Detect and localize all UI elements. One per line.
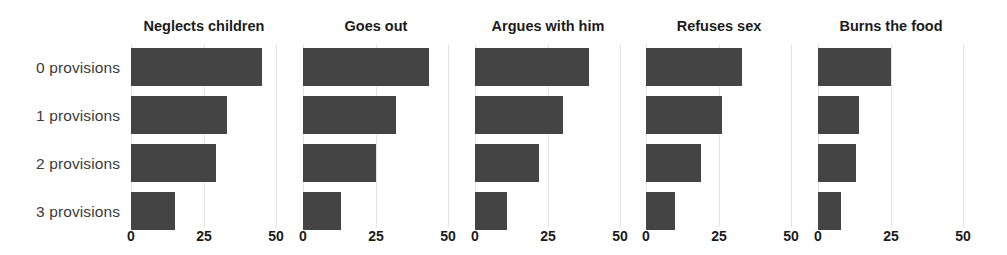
x-axis: 0 25 50 bbox=[303, 228, 449, 250]
x-tick-label: 0 bbox=[299, 228, 307, 244]
bar bbox=[818, 144, 856, 182]
x-axis: 0 25 50 bbox=[818, 228, 964, 250]
bar bbox=[475, 144, 539, 182]
x-tick-label: 25 bbox=[196, 228, 212, 244]
bar bbox=[646, 192, 675, 230]
bar bbox=[646, 48, 742, 86]
category-label: 1 provisions bbox=[36, 107, 120, 125]
x-axis: 0 25 50 bbox=[646, 228, 792, 250]
bar bbox=[303, 144, 376, 182]
bar bbox=[131, 96, 227, 134]
x-tick-label: 0 bbox=[814, 228, 822, 244]
panel-burns-the-food: Burns the food 0 25 50 bbox=[818, 0, 964, 255]
bar bbox=[646, 96, 722, 134]
category-axis-labels: 0 provisions 1 provisions 2 provisions 3… bbox=[0, 0, 126, 255]
chart-figure: 0 provisions 1 provisions 2 provisions 3… bbox=[0, 0, 1007, 255]
bar bbox=[475, 192, 507, 230]
bar bbox=[646, 144, 701, 182]
x-axis: 0 25 50 bbox=[475, 228, 621, 250]
panel-neglects-children: Neglects children 0 25 50 bbox=[131, 0, 277, 255]
bar bbox=[818, 96, 859, 134]
panel-title: Argues with him bbox=[475, 18, 621, 34]
x-tick-label: 50 bbox=[440, 228, 456, 244]
plot-area bbox=[475, 44, 621, 227]
plot-area bbox=[131, 44, 277, 227]
panel-title: Goes out bbox=[303, 18, 449, 34]
bar bbox=[303, 96, 396, 134]
x-tick-label: 50 bbox=[268, 228, 284, 244]
gridline-50 bbox=[620, 44, 621, 227]
panel-refuses-sex: Refuses sex 0 25 50 bbox=[646, 0, 792, 255]
x-tick-label: 50 bbox=[612, 228, 628, 244]
panel-argues-with-him: Argues with him 0 25 50 bbox=[475, 0, 621, 255]
plot-area bbox=[818, 44, 964, 227]
bar bbox=[131, 192, 175, 230]
panel-goes-out: Goes out 0 25 50 bbox=[303, 0, 449, 255]
category-label: 0 provisions bbox=[36, 59, 120, 77]
gridline-50 bbox=[448, 44, 449, 227]
x-tick-label: 25 bbox=[368, 228, 384, 244]
x-tick-label: 0 bbox=[642, 228, 650, 244]
gridline-25 bbox=[891, 44, 892, 227]
bar bbox=[303, 192, 341, 230]
bar bbox=[131, 144, 216, 182]
x-tick-label: 50 bbox=[955, 228, 971, 244]
panel-title: Burns the food bbox=[818, 18, 964, 34]
bar bbox=[303, 48, 429, 86]
category-label: 3 provisions bbox=[36, 203, 120, 221]
x-tick-label: 0 bbox=[471, 228, 479, 244]
gridline-50 bbox=[791, 44, 792, 227]
gridline-50 bbox=[276, 44, 277, 227]
bar bbox=[475, 96, 563, 134]
x-tick-label: 25 bbox=[711, 228, 727, 244]
panel-title: Refuses sex bbox=[646, 18, 792, 34]
bar bbox=[475, 48, 589, 86]
x-tick-label: 25 bbox=[883, 228, 899, 244]
plot-area bbox=[303, 44, 449, 227]
panel-title: Neglects children bbox=[131, 18, 277, 34]
x-tick-label: 25 bbox=[540, 228, 556, 244]
plot-area bbox=[646, 44, 792, 227]
x-tick-label: 50 bbox=[783, 228, 799, 244]
gridline-50 bbox=[963, 44, 964, 227]
bar bbox=[818, 48, 891, 86]
bar bbox=[818, 192, 841, 230]
category-label: 2 provisions bbox=[36, 155, 120, 173]
x-axis: 0 25 50 bbox=[131, 228, 277, 250]
bar bbox=[131, 48, 262, 86]
x-tick-label: 0 bbox=[127, 228, 135, 244]
